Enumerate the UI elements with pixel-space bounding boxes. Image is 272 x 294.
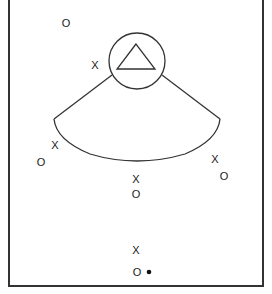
player-o: O <box>62 18 71 29</box>
player-o: O <box>133 267 142 278</box>
player-x: X <box>51 140 58 151</box>
fan-arc <box>54 119 220 161</box>
player-o: O <box>37 157 46 168</box>
fan-right-edge <box>162 75 220 119</box>
player-x: X <box>132 245 139 256</box>
player-o: O <box>132 189 141 200</box>
fan-left-edge <box>54 75 112 119</box>
ball-icon <box>147 270 152 275</box>
player-x: X <box>132 174 139 185</box>
player-x: X <box>91 60 98 71</box>
triangle-icon <box>117 44 155 69</box>
zone-circle <box>109 33 165 89</box>
player-o: O <box>220 171 229 182</box>
player-x: X <box>211 154 218 165</box>
